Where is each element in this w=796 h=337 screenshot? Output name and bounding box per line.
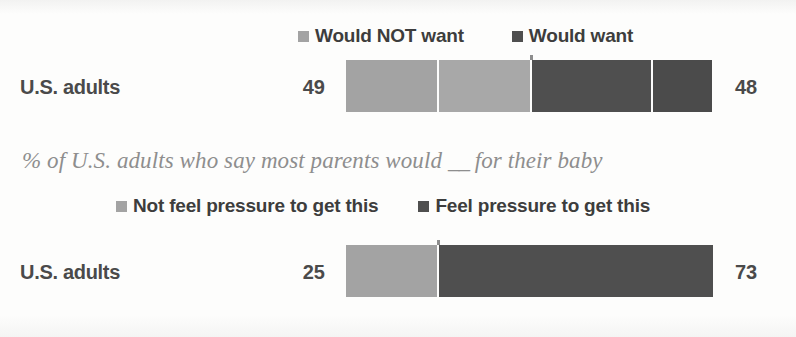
pressure-chart: Not feel pressure to get this Feel press… — [0, 190, 796, 337]
row-category-label: U.S. adults — [20, 76, 120, 99]
legend-item-feel-pressure[interactable]: Feel pressure to get this — [418, 195, 650, 217]
would-want-chart: Would NOT want Would want U.S. adults 49… — [0, 0, 796, 130]
row-value-right: 73 — [735, 261, 785, 284]
legend-item-label: Feel pressure to get this — [435, 195, 650, 217]
bar-segment-not-feel-pressure[interactable] — [346, 245, 437, 297]
chart-page: Would NOT want Would want U.S. adults 49… — [0, 0, 796, 337]
legend-swatch-icon — [298, 31, 309, 42]
legend-would-want: Would NOT want Would want — [298, 24, 633, 48]
chart-subtitle: % of U.S. adults who say most parents wo… — [22, 148, 603, 174]
subtitle-blank: __ — [448, 148, 469, 173]
row-category-label: U.S. adults — [20, 261, 120, 284]
zero-axis-tick — [437, 240, 440, 245]
bar-segment-would-want-b[interactable] — [653, 60, 712, 112]
bar-track — [346, 60, 712, 112]
bar-row: U.S. adults 49 48 — [0, 60, 796, 116]
legend-item-label: Would want — [529, 25, 633, 47]
legend-pressure: Not feel pressure to get this Feel press… — [116, 194, 650, 218]
legend-item-label: Would NOT want — [315, 25, 464, 47]
bar-track — [346, 245, 713, 297]
row-value-right: 48 — [735, 76, 785, 99]
legend-swatch-icon — [512, 31, 523, 42]
bar-segment-would-want-a[interactable] — [532, 60, 651, 112]
legend-item-would-want[interactable]: Would want — [512, 25, 633, 47]
legend-swatch-icon — [116, 201, 127, 212]
legend-item-label: Not feel pressure to get this — [133, 195, 378, 217]
bar-row: U.S. adults 25 73 — [0, 245, 796, 301]
subtitle-text-before: % of U.S. adults who say most parents wo… — [22, 148, 448, 173]
legend-swatch-icon — [418, 201, 429, 212]
row-value-left: 25 — [275, 261, 325, 284]
bar-segment-would-not-want-b[interactable] — [439, 60, 530, 112]
bar-segment-would-not-want-a[interactable] — [346, 60, 437, 112]
bar-segment-feel-pressure[interactable] — [439, 245, 713, 297]
zero-axis-tick — [530, 55, 533, 60]
legend-item-not-feel-pressure[interactable]: Not feel pressure to get this — [116, 195, 378, 217]
legend-item-would-not-want[interactable]: Would NOT want — [298, 25, 464, 47]
row-value-left: 49 — [275, 76, 325, 99]
subtitle-text-after: for their baby — [469, 148, 603, 173]
